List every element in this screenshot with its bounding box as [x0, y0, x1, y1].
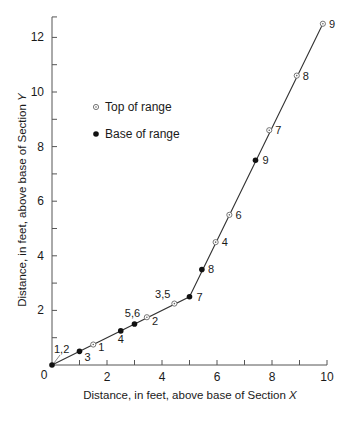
axes: 024681024681012 [31, 17, 334, 384]
point-label: 4 [118, 333, 124, 345]
point-label: 7 [197, 291, 203, 303]
data-points: 123,5467891,2345,6789 [49, 18, 335, 368]
top-of-range-marker-dot-icon [92, 344, 94, 346]
x-tick-label: 4 [159, 370, 166, 384]
base-of-range-marker-icon [132, 321, 138, 327]
legend-base-marker-icon [93, 131, 99, 137]
point-label: 7 [275, 124, 281, 136]
y-tick-label: 2 [37, 303, 44, 317]
top-of-range-marker-dot-icon [146, 316, 148, 318]
top-of-range-marker-dot-icon [215, 241, 217, 243]
point-label: 1 [98, 341, 104, 353]
legend: Top of range Base of range [93, 100, 180, 141]
point-label: 8 [208, 263, 214, 275]
point-label: 3,5 [155, 288, 170, 300]
y-tick-label: 4 [37, 249, 44, 263]
base-of-range-marker-icon [77, 349, 83, 355]
y-tick-label: 8 [37, 140, 44, 154]
point-label: 8 [303, 70, 309, 82]
base-of-range-marker-icon [187, 294, 193, 300]
x-axis-label: Distance, in feet, above base of Section… [83, 389, 298, 401]
top-of-range-marker-dot-icon [229, 214, 231, 216]
point-label: 1,2 [54, 343, 69, 355]
origin-label: 0 [41, 368, 48, 382]
chart: 024681024681012 123,5467891,2345,6789 To… [0, 0, 351, 421]
legend-base-label: Base of range [105, 127, 180, 141]
legend-top-label: Top of range [105, 100, 172, 114]
y-axis-label: Distance, in feet, above base of Section… [16, 92, 28, 307]
x-tick-label: 8 [269, 370, 276, 384]
point-label: 5,6 [125, 307, 140, 319]
point-label: 6 [235, 209, 241, 221]
point-label: 2 [152, 315, 158, 327]
point-label: 9 [329, 18, 335, 30]
y-tick-label: 12 [31, 30, 45, 44]
y-tick-label: 10 [31, 85, 45, 99]
y-tick-label: 6 [37, 194, 44, 208]
top-of-range-marker-dot-icon [296, 75, 298, 77]
legend-top-marker-dot-icon [95, 106, 97, 108]
x-tick-label: 2 [104, 370, 111, 384]
base-of-range-marker-icon [199, 267, 205, 273]
trend-line [52, 24, 323, 365]
x-tick-label: 6 [214, 370, 221, 384]
point-label: 9 [263, 154, 269, 166]
point-label: 4 [222, 236, 228, 248]
top-of-range-marker-dot-icon [268, 129, 270, 131]
top-of-range-marker-dot-icon [322, 23, 324, 25]
base-of-range-marker-icon [49, 362, 55, 368]
trend-polyline [52, 24, 323, 365]
x-tick-label: 10 [320, 370, 334, 384]
point-label: 3 [85, 351, 91, 363]
top-of-range-marker-dot-icon [174, 303, 176, 305]
base-of-range-marker-icon [253, 157, 259, 163]
